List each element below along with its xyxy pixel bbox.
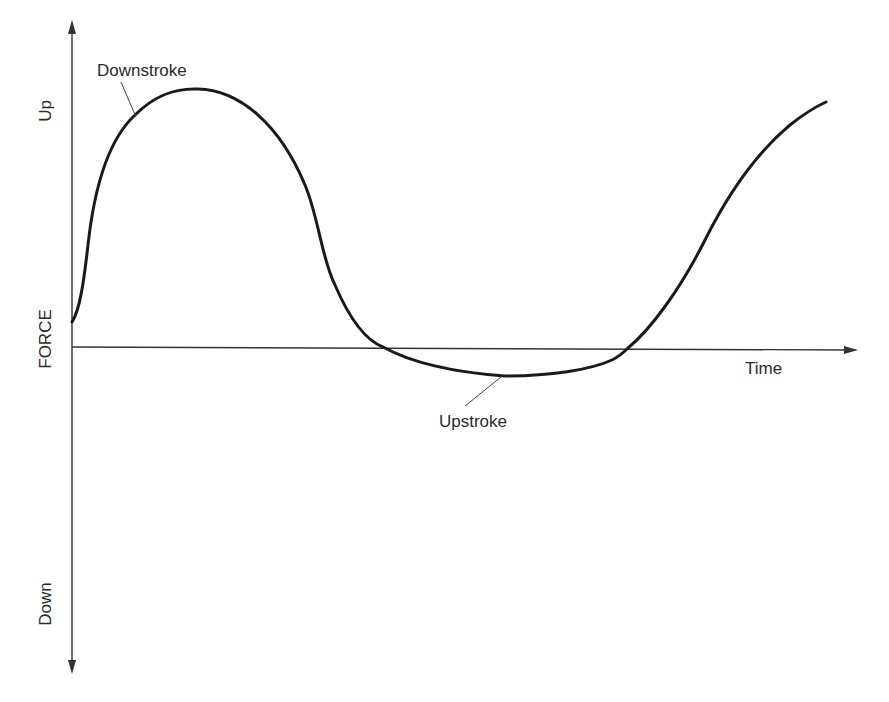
- downstroke-label: Downstroke: [97, 62, 187, 79]
- y-axis-up-label: Up: [37, 100, 54, 122]
- upstroke-label: Upstroke: [439, 413, 507, 430]
- upstroke-leader: [465, 377, 501, 406]
- y-axis-label: FORCE: [37, 309, 54, 369]
- force-time-diagram: [0, 0, 889, 702]
- force-curve: [72, 89, 826, 376]
- y-axis-down-label: Down: [37, 582, 54, 625]
- downstroke-leader: [121, 82, 136, 117]
- y-axis-down-arrow-icon: [68, 660, 76, 674]
- x-axis-arrow-icon: [844, 346, 858, 354]
- x-axis-label: Time: [745, 360, 782, 377]
- y-axis-up-arrow-icon: [68, 20, 76, 34]
- x-axis: [72, 347, 848, 350]
